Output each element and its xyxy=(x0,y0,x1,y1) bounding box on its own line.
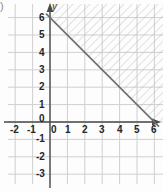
x-tick-label-neg1: -1 xyxy=(27,125,36,135)
y-tick-label-1: 1 xyxy=(39,100,45,110)
y-tick-label-neg1: -1 xyxy=(36,134,45,144)
y-axis-label: y xyxy=(52,2,57,12)
y-tick-label-5: 5 xyxy=(39,30,45,40)
x-tick-label-2: 2 xyxy=(82,125,88,135)
x-tick-label-6: 6 xyxy=(151,125,157,135)
y-tick-label-2: 2 xyxy=(39,82,45,92)
x-tick-label-3: 3 xyxy=(99,125,105,135)
x-tick-label-5: 5 xyxy=(134,125,140,135)
y-tick-label-3: 3 xyxy=(39,65,45,75)
y-tick-label-0: 0 xyxy=(39,114,45,124)
y-tick-label-neg2: -2 xyxy=(36,152,45,162)
x-tick-label-neg2: -2 xyxy=(10,125,19,135)
x-tick-label-1: 1 xyxy=(65,125,71,135)
graph-figure: ) xyxy=(0,0,163,192)
x-tick-label-0: 0 xyxy=(51,125,57,135)
y-tick-label-6: 6 xyxy=(39,13,45,23)
y-tick-label-neg3: -3 xyxy=(36,169,45,179)
coordinate-plane-svg xyxy=(0,0,163,192)
y-tick-label-4: 4 xyxy=(39,48,45,58)
x-tick-label-4: 4 xyxy=(117,125,123,135)
